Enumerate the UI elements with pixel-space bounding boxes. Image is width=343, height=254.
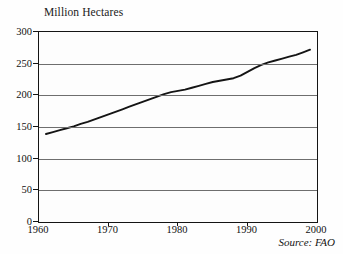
x-tick-label: 1980 <box>167 224 188 235</box>
plot-area <box>38 31 318 223</box>
y-tick-label: 250 <box>2 57 32 68</box>
y-tick-label: 200 <box>2 89 32 100</box>
y-tick-label: 150 <box>2 121 32 132</box>
gridline-horizontal <box>39 159 317 160</box>
x-tick-label: 1970 <box>97 224 118 235</box>
source-annotation: Source: FAO <box>278 236 335 248</box>
y-tick-label: 100 <box>2 152 32 163</box>
series-polyline <box>46 50 310 134</box>
gridline-horizontal <box>39 190 317 191</box>
chart-screenshot: Million Hectares 050100150200250300 1960… <box>0 0 343 254</box>
chart-title: Million Hectares <box>44 6 123 18</box>
x-tick-label: 1990 <box>236 224 257 235</box>
x-tick-label: 1960 <box>28 224 49 235</box>
x-tick-label: 2000 <box>306 224 327 235</box>
gridline-horizontal <box>39 127 317 128</box>
y-tick-label: 50 <box>2 184 32 195</box>
y-tick-label: 300 <box>2 26 32 37</box>
gridline-horizontal <box>39 64 317 65</box>
gridline-horizontal <box>39 95 317 96</box>
line-chart-figure: Million Hectares 050100150200250300 1960… <box>0 0 343 254</box>
y-tick-label: 0 <box>2 216 32 227</box>
